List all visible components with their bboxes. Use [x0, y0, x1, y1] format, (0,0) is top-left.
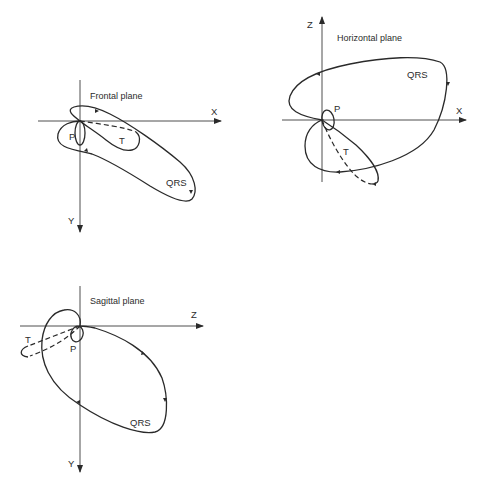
sagittal-z-label: Z	[191, 309, 197, 320]
frontal-qrs-label: QRS	[166, 177, 187, 188]
horizontal-plane-panel: Horizontal plane Z X P T QRS	[282, 17, 466, 186]
sagittal-plane-title: Sagittal plane	[90, 296, 145, 306]
sagittal-qrs-label: QRS	[130, 417, 151, 428]
frontal-qrs-direction-arrow	[84, 148, 88, 152]
sagittal-t-label: T	[25, 334, 31, 345]
horizontal-p-label: P	[334, 103, 340, 114]
sagittal-y-label: Y	[68, 458, 75, 469]
horizontal-t-direction-arrow	[372, 182, 376, 186]
sagittal-plane-panel: Sagittal plane Z Y T P QRS	[20, 286, 203, 472]
horizontal-plane-title: Horizontal plane	[337, 33, 402, 43]
horizontal-qrs-label: QRS	[407, 69, 428, 80]
frontal-p-label: P	[69, 131, 75, 142]
horizontal-t-label: T	[343, 146, 349, 157]
frontal-t-label: T	[119, 135, 125, 146]
frontal-plane-title: Frontal plane	[90, 91, 143, 101]
sagittal-p-label: P	[70, 343, 76, 354]
frontal-x-label: X	[211, 106, 218, 117]
sagittal-t-loop-tip	[21, 346, 28, 357]
frontal-plane-panel: Frontal plane X Y P T QRS	[38, 80, 221, 232]
horizontal-qrs-direction-arrow	[336, 170, 340, 174]
frontal-qrs-direction-arrow	[189, 190, 193, 194]
horizontal-x-label: X	[456, 105, 463, 116]
cropped-caption-fragment	[24, 484, 464, 493]
horizontal-z-label: Z	[307, 19, 313, 30]
frontal-y-label: Y	[68, 215, 75, 226]
sagittal-qrs-loop	[42, 310, 167, 433]
vectorcardiogram-diagram: Frontal plane X Y P T QRS Horizontal pla…	[0, 0, 482, 493]
